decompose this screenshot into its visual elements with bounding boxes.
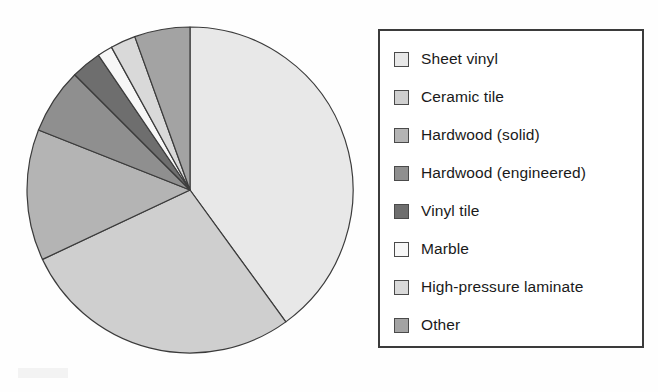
legend-item-label: Other xyxy=(421,316,460,334)
legend-item[interactable]: High-pressure laminate xyxy=(394,268,642,306)
legend-item[interactable]: Sheet vinyl xyxy=(394,40,642,78)
legend-swatch-icon xyxy=(394,204,409,219)
legend-item[interactable]: Ceramic tile xyxy=(394,78,642,116)
legend-swatch-icon xyxy=(394,242,409,257)
chart-legend: Sheet vinylCeramic tileHardwood (solid)H… xyxy=(378,29,644,348)
pie-slice-group xyxy=(27,27,353,353)
legend-item-label: Sheet vinyl xyxy=(421,50,498,68)
legend-item-label: Vinyl tile xyxy=(421,202,479,220)
legend-swatch-icon xyxy=(394,90,409,105)
legend-item-list: Sheet vinylCeramic tileHardwood (solid)H… xyxy=(380,31,642,346)
legend-item-label: Hardwood (engineered) xyxy=(421,164,586,182)
legend-item[interactable]: Vinyl tile xyxy=(394,192,642,230)
legend-swatch-icon xyxy=(394,318,409,333)
pie-plot-area xyxy=(0,0,370,392)
pie-svg xyxy=(0,0,370,392)
legend-item-label: Marble xyxy=(421,240,469,258)
legend-swatch-icon xyxy=(394,128,409,143)
legend-swatch-icon xyxy=(394,52,409,67)
legend-item[interactable]: Marble xyxy=(394,230,642,268)
legend-item[interactable]: Other xyxy=(394,306,642,344)
pie-chart-figure: Sheet vinylCeramic tileHardwood (solid)H… xyxy=(0,0,658,392)
legend-swatch-icon xyxy=(394,166,409,181)
legend-item[interactable]: Hardwood (solid) xyxy=(394,116,642,154)
legend-swatch-icon xyxy=(394,280,409,295)
legend-item-label: Ceramic tile xyxy=(421,88,504,106)
legend-item-label: High-pressure laminate xyxy=(421,278,583,296)
legend-item-label: Hardwood (solid) xyxy=(421,126,540,144)
scan-artifact xyxy=(18,368,68,378)
legend-item[interactable]: Hardwood (engineered) xyxy=(394,154,642,192)
